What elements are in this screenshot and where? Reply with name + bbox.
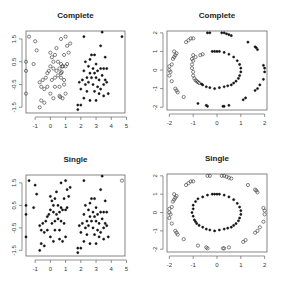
data-point — [228, 53, 230, 55]
data-point — [53, 85, 56, 88]
data-point — [205, 104, 207, 106]
data-point — [222, 105, 224, 107]
data-point — [69, 42, 72, 45]
series-cluster-2 — [120, 179, 123, 182]
data-point — [45, 220, 47, 222]
data-point — [78, 225, 80, 227]
data-point — [264, 71, 266, 73]
data-point — [101, 74, 103, 76]
data-point — [39, 225, 41, 227]
data-point — [228, 104, 230, 106]
y-tick-label: 2 — [152, 174, 158, 178]
x-tick-label: 0 — [215, 120, 219, 126]
data-point — [192, 70, 195, 73]
data-point — [106, 67, 108, 69]
data-point — [57, 204, 59, 206]
data-point — [96, 70, 98, 72]
data-point — [256, 88, 258, 90]
data-point — [84, 83, 86, 85]
data-point — [61, 240, 63, 242]
y-tick-label: 2 — [152, 31, 158, 35]
data-point — [27, 35, 30, 38]
data-point — [33, 207, 35, 209]
data-point — [64, 65, 67, 68]
data-point — [50, 78, 53, 81]
data-point — [34, 40, 37, 43]
data-point — [214, 50, 216, 52]
data-point — [95, 77, 97, 79]
data-point — [63, 198, 65, 200]
data-point — [55, 46, 58, 49]
x-tick-label: 0 — [49, 123, 53, 129]
data-point — [83, 213, 85, 215]
data-point — [198, 224, 200, 226]
data-point — [103, 238, 105, 240]
data-point — [242, 99, 244, 101]
data-point — [60, 182, 62, 184]
data-point — [80, 231, 82, 233]
data-point — [223, 51, 225, 53]
data-point — [218, 50, 220, 52]
data-point — [237, 220, 239, 222]
data-point — [196, 244, 199, 247]
data-point — [78, 81, 80, 83]
data-point — [190, 63, 193, 66]
data-point — [40, 243, 42, 245]
data-point — [95, 207, 97, 209]
data-point — [66, 207, 68, 209]
plot-frame — [167, 174, 267, 252]
data-point — [214, 88, 216, 90]
data-point — [121, 36, 123, 38]
data-point — [218, 193, 220, 195]
y-tick-label: 0 — [152, 68, 158, 72]
data-point — [228, 196, 230, 198]
data-point — [43, 231, 45, 233]
data-point — [194, 55, 197, 58]
data-point — [67, 51, 70, 54]
chart-title: Complete — [57, 11, 94, 20]
data-point — [47, 69, 50, 72]
data-point — [246, 183, 249, 186]
data-point — [52, 97, 55, 100]
data-point — [58, 67, 61, 70]
y-tick-label: 1.5 — [11, 178, 17, 187]
data-point — [66, 44, 69, 47]
data-point — [77, 252, 79, 254]
x-tick-label: 0 — [215, 262, 219, 268]
data-point — [59, 37, 62, 40]
data-point — [106, 211, 108, 213]
data-point — [46, 85, 49, 88]
data-point — [236, 202, 238, 204]
data-point — [120, 179, 123, 182]
data-point — [239, 217, 241, 219]
data-point — [90, 54, 92, 56]
data-point — [83, 36, 85, 38]
data-point — [96, 229, 98, 231]
chart-title: Single — [63, 155, 88, 164]
x-tick-label: -2 — [167, 262, 173, 268]
data-point — [100, 67, 102, 69]
data-point — [77, 108, 79, 110]
data-point — [253, 231, 256, 234]
data-point — [202, 196, 204, 198]
data-point — [35, 49, 38, 52]
data-point — [84, 204, 86, 206]
plot-single-rings: Single-2-1012-2-1012 — [140, 142, 280, 284]
data-point — [209, 32, 211, 34]
data-point — [93, 72, 95, 74]
data-point — [61, 209, 63, 211]
x-tick-label: 2 — [79, 266, 83, 272]
data-point — [46, 229, 48, 231]
data-point — [233, 199, 235, 201]
data-point — [58, 211, 60, 213]
y-tick-label: -0.5 — [11, 79, 17, 90]
chart-title: Single — [205, 154, 230, 163]
data-point — [80, 104, 82, 106]
data-point — [235, 80, 237, 82]
data-point — [182, 95, 185, 98]
scatter-plot: Complete-2-1012-2-1012 — [140, 0, 281, 142]
data-point — [89, 243, 91, 245]
series-cluster-1 — [25, 175, 109, 254]
data-point — [60, 207, 62, 209]
data-point — [58, 85, 61, 88]
